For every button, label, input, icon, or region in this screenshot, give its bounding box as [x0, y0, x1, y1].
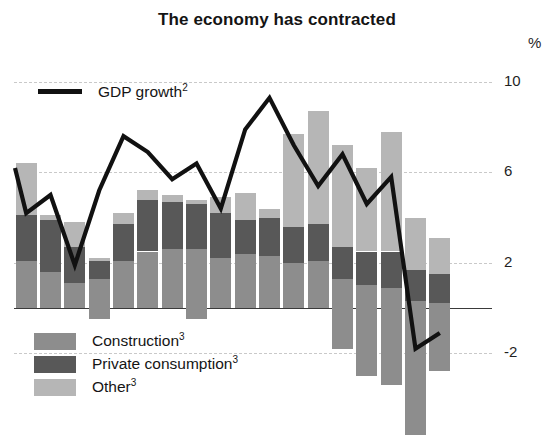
bar-segment-private-consumption	[381, 252, 402, 288]
bar-segment-private-consumption	[283, 227, 304, 263]
bar-group	[405, 0, 426, 437]
bar-segment-private-consumption	[137, 200, 158, 252]
bar-segment-construction	[332, 279, 353, 308]
bar-segment-construction	[405, 301, 426, 308]
bar-segment-private-consumption	[89, 261, 110, 279]
bar-segment-construction	[113, 261, 134, 308]
bar-segment-private-consumption	[429, 274, 450, 303]
bar-segment-construction	[186, 249, 207, 308]
bar-segment-construction	[283, 263, 304, 308]
bar-segment-negative	[405, 308, 426, 435]
bar-segment-construction	[40, 272, 61, 308]
bar-segment-construction	[89, 279, 110, 308]
bar-segment-other	[162, 195, 183, 202]
bar-segment-other	[283, 134, 304, 227]
bar-segment-other	[405, 218, 426, 270]
legend-item-private-consumption: Private consumption3	[34, 353, 238, 375]
legend-label-footnote: 3	[232, 354, 238, 365]
legend-label: Construction3	[92, 331, 185, 350]
bar-group	[308, 0, 329, 437]
bar-segment-other	[64, 222, 85, 247]
legend-swatch-other	[34, 379, 76, 396]
bar-segment-construction	[162, 249, 183, 308]
bar-group	[429, 0, 450, 437]
bar-segment-private-consumption	[259, 218, 280, 256]
bar-segment-private-consumption	[40, 220, 61, 272]
bar-segment-construction	[259, 256, 280, 308]
bar-segment-private-consumption	[64, 247, 85, 283]
bar-segment-private-consumption	[235, 220, 256, 254]
bar-segment-negative	[429, 308, 450, 371]
bar-segment-negative	[381, 308, 402, 385]
bar-segment-private-consumption	[356, 252, 377, 286]
legend-label-text: Other	[92, 379, 131, 396]
bar-segment-other	[186, 200, 207, 205]
bar-segment-private-consumption	[332, 247, 353, 279]
legend-label-text: Private consumption	[92, 356, 232, 373]
bar-segment-construction	[16, 261, 37, 308]
gdp-growth-line-swatch	[38, 89, 82, 94]
bar-segment-other	[259, 209, 280, 218]
bar-group	[332, 0, 353, 437]
legend-gdp-growth: GDP growth2	[38, 82, 188, 101]
bar-segment-other	[137, 190, 158, 199]
bar-group	[283, 0, 304, 437]
bar-segment-other	[16, 163, 37, 215]
bar-segment-other	[381, 132, 402, 252]
bar-segment-negative	[89, 308, 110, 319]
legend-item-other: Other3	[34, 376, 238, 398]
legend-stacked-series: Construction3Private consumption3Other3	[34, 330, 238, 399]
chart-root: The economy has contracted 1062-2% GDP g…	[0, 0, 554, 437]
bar-segment-construction	[64, 283, 85, 308]
legend-gdp-growth-footnote: 2	[182, 82, 188, 93]
bar-segment-private-consumption	[16, 215, 37, 260]
legend-swatch-private-consumption	[34, 356, 76, 373]
bar-segment-other	[429, 238, 450, 274]
bar-segment-other	[332, 145, 353, 247]
bar-segment-other	[356, 168, 377, 252]
bar-segment-private-consumption	[162, 202, 183, 249]
bar-segment-construction	[308, 261, 329, 308]
bar-segment-private-consumption	[113, 224, 134, 260]
legend-label-text: Construction	[92, 333, 179, 350]
bar-segment-negative	[186, 308, 207, 319]
bar-segment-construction	[137, 252, 158, 309]
bar-segment-construction	[210, 258, 231, 308]
legend-label: Private consumption3	[92, 354, 238, 373]
bar-segment-other	[210, 197, 231, 213]
bar-segment-private-consumption	[308, 224, 329, 260]
legend-label: Other3	[92, 377, 136, 396]
bar-segment-private-consumption	[405, 270, 426, 302]
legend-label-footnote: 3	[131, 377, 137, 388]
bar-segment-private-consumption	[210, 213, 231, 258]
bar-segment-other	[308, 111, 329, 224]
legend-gdp-growth-label: GDP growth2	[98, 82, 188, 101]
legend-swatch-construction	[34, 333, 76, 350]
bar-group	[259, 0, 280, 437]
bar-segment-other	[40, 215, 61, 220]
bar-segment-other	[113, 213, 134, 224]
bar-group	[381, 0, 402, 437]
bar-segment-negative	[356, 308, 377, 376]
legend-item-construction: Construction3	[34, 330, 238, 352]
bar-segment-construction	[381, 288, 402, 308]
bar-segment-construction	[356, 285, 377, 308]
bar-segment-other	[235, 193, 256, 220]
bar-segment-construction	[235, 254, 256, 308]
bar-segment-private-consumption	[186, 204, 207, 249]
bar-group	[356, 0, 377, 437]
legend-gdp-growth-text: GDP growth	[98, 83, 182, 100]
bar-segment-other	[89, 258, 110, 260]
bar-segment-negative	[332, 308, 353, 349]
legend-label-footnote: 3	[179, 331, 185, 342]
